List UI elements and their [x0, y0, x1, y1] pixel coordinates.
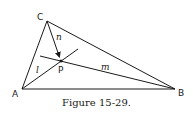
- point-label-p: P: [58, 65, 64, 75]
- line-label-n: n: [56, 32, 62, 42]
- vertex-label-c: C: [37, 12, 43, 22]
- line-l: [22, 49, 78, 89]
- figure-caption: Figure 15-29.: [0, 97, 193, 108]
- side-ac: [22, 21, 47, 89]
- line-label-l: l: [36, 65, 39, 75]
- side-cb: [47, 21, 175, 89]
- line-label-m: m: [101, 62, 110, 72]
- point-p-dot: [60, 60, 63, 63]
